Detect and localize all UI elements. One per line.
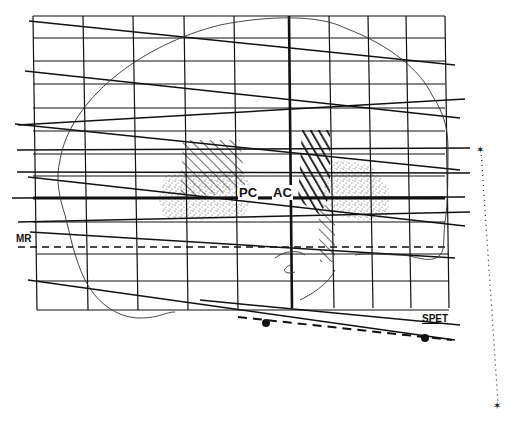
brain-outline — [58, 18, 448, 318]
ac-label: AC — [272, 185, 293, 200]
spet-label: SPET — [422, 313, 448, 324]
dotted-axis: ✶ ✶ — [476, 144, 501, 411]
pc-label: PC — [238, 185, 258, 200]
spet-dot — [262, 319, 270, 327]
star-marker-bottom: ✶ — [493, 400, 501, 411]
spet-dot — [421, 334, 429, 342]
brain-slice-diagram: ✶ ✶ — [0, 0, 514, 427]
mr-label: MR — [16, 233, 32, 244]
star-marker-top: ✶ — [476, 144, 484, 155]
